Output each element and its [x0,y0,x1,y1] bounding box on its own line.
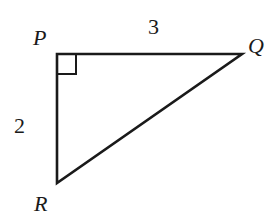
vertex-label-r: R [33,191,48,216]
vertex-label-q: Q [248,33,264,58]
triangle-pqr [57,54,242,183]
triangle-diagram: P Q R 3 2 [0,0,278,216]
right-angle-marker [57,54,76,74]
side-label-pq: 3 [148,14,159,39]
vertex-label-p: P [32,25,46,50]
side-label-pr: 2 [14,113,25,138]
